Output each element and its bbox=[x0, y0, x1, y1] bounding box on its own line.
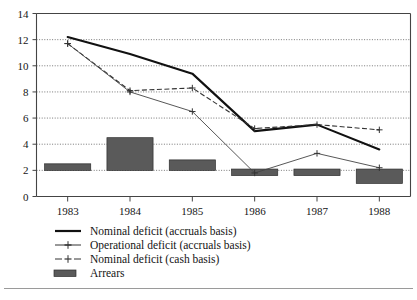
x-tick-marks-group bbox=[68, 197, 380, 202]
dashed-line-plus-marker-key-icon bbox=[52, 253, 84, 265]
markers-nominal-cash-group bbox=[64, 40, 382, 133]
legend-item-nominal-accruals: Nominal deficit (accruals basis) bbox=[52, 224, 382, 238]
x-tick-label-1986: 1986 bbox=[244, 205, 267, 216]
y-tick-label-2: 2 bbox=[23, 164, 29, 176]
y-tick-label-10: 10 bbox=[18, 60, 30, 72]
arrears-bar-1988 bbox=[356, 169, 402, 183]
legend-label-nominal-accruals: Nominal deficit (accruals basis) bbox=[90, 225, 237, 237]
filled-bar-swatch-key-icon bbox=[52, 267, 84, 279]
legend-label-nominal-cash: Nominal deficit (cash basis) bbox=[90, 253, 219, 265]
legend-item-arrears: Arrears bbox=[52, 266, 382, 280]
y-tick-marks-group bbox=[33, 14, 37, 197]
y-tick-label-12: 12 bbox=[18, 34, 29, 46]
y-tick-label-6: 6 bbox=[23, 112, 29, 124]
series-line-nominal-deficit-cash bbox=[68, 44, 380, 130]
x-tick-label-1987: 1987 bbox=[306, 205, 329, 216]
y-tick-label-8: 8 bbox=[23, 86, 29, 98]
y-tick-label-14: 14 bbox=[18, 8, 30, 20]
x-tick-label-1985: 1985 bbox=[181, 205, 204, 216]
series-line-nominal-deficit-accruals bbox=[68, 37, 380, 149]
deficit-line-chart: 02468101214 198319841985198619871988 bbox=[0, 0, 417, 215]
y-axis-tick-labels-group: 02468101214 bbox=[18, 8, 30, 203]
x-axis-tick-labels-group: 198319841985198619871988 bbox=[57, 205, 391, 216]
arrears-bar-1987 bbox=[294, 169, 340, 176]
x-tick-label-1988: 1988 bbox=[368, 205, 391, 216]
chart-plot-area: 02468101214 198319841985198619871988 bbox=[0, 0, 417, 215]
legend-item-operational-accruals: Operational deficit (accruals basis) bbox=[52, 238, 382, 252]
thin-line-plus-marker-key-icon bbox=[52, 239, 84, 251]
chart-legend: Nominal deficit (accruals basis) Operati… bbox=[52, 224, 382, 280]
y-tick-label-4: 4 bbox=[23, 138, 29, 150]
chart-page: 02468101214 198319841985198619871988 N bbox=[0, 0, 417, 300]
footer-divider bbox=[4, 288, 413, 289]
legend-label-arrears: Arrears bbox=[90, 267, 124, 279]
arrears-bar-1985 bbox=[169, 160, 215, 170]
y-tick-label-0: 0 bbox=[23, 191, 29, 203]
arrears-bar-1984 bbox=[107, 138, 153, 171]
arrears-bar-1983 bbox=[45, 164, 91, 171]
x-tick-label-1983: 1983 bbox=[57, 205, 80, 216]
x-tick-label-1984: 1984 bbox=[119, 205, 142, 216]
legend-label-operational-accruals: Operational deficit (accruals basis) bbox=[90, 239, 251, 251]
legend-item-nominal-cash: Nominal deficit (cash basis) bbox=[52, 252, 382, 266]
gridlines-group bbox=[37, 14, 411, 171]
solid-thick-line-key-icon bbox=[52, 225, 84, 237]
